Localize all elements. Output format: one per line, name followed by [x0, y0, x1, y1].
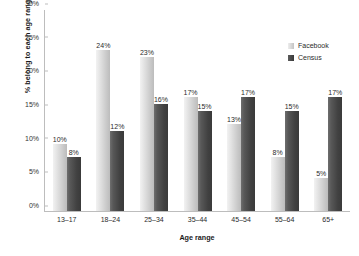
- bar-census-35–44: 15%: [198, 111, 212, 212]
- bar-census-45–54: 17%: [241, 97, 255, 211]
- x-axis-title: Age range: [44, 233, 350, 242]
- bar-value-label: 24%: [96, 42, 110, 49]
- bar-facebook-13–17: 10%: [53, 144, 67, 211]
- y-axis-tick: 20%: [25, 67, 44, 74]
- x-axis-line: [44, 211, 350, 212]
- chart-legend: FacebookCensus: [288, 42, 329, 61]
- x-axis-tick-label: 35–44: [188, 216, 207, 223]
- bar-value-label: 17%: [184, 89, 198, 96]
- y-axis-tick: 5%: [29, 168, 44, 175]
- y-axis-tick: 15%: [25, 101, 44, 108]
- y-axis-tick: 10%: [25, 134, 44, 141]
- legend-label: Facebook: [298, 42, 329, 49]
- bar-facebook-45–54: 13%: [227, 124, 241, 211]
- bar-value-label: 17%: [328, 89, 342, 96]
- bar-groups: 10%8%13–1724%12%18–2423%16%25–3417%15%35…: [45, 10, 350, 211]
- bar-group: 17%15%35–44: [176, 10, 220, 211]
- bar-facebook-65+: 5%: [314, 178, 328, 211]
- bar-chart: % belong to each age range 0%5%10%15%20%…: [0, 0, 359, 256]
- y-axis-title: % belong to each age range: [23, 0, 32, 130]
- legend-swatch-icon: [288, 55, 294, 61]
- bar-value-label: 16%: [154, 96, 168, 103]
- legend-swatch-icon: [288, 43, 294, 49]
- bar-census-18–24: 12%: [110, 131, 124, 211]
- bar-group: 13%17%45–54: [219, 10, 263, 211]
- bar-value-label: 15%: [285, 103, 299, 110]
- bar-census-13–17: 8%: [67, 157, 81, 211]
- y-axis-tick: 30%: [25, 0, 44, 7]
- x-axis-tick-label: 25–34: [144, 216, 163, 223]
- bar-group: 10%8%13–17: [45, 10, 89, 211]
- y-axis-tick: 0%: [29, 202, 44, 209]
- y-tick-mark: [45, 3, 48, 4]
- bar-census-65+: 17%: [328, 97, 342, 211]
- bar-facebook-55–64: 8%: [271, 157, 285, 211]
- bar-value-label: 5%: [316, 170, 326, 177]
- bar-value-label: 10%: [53, 136, 67, 143]
- legend-item-census: Census: [288, 54, 329, 61]
- x-axis-tick-label: 18–24: [101, 216, 120, 223]
- bar-group: 23%16%25–34: [132, 10, 176, 211]
- bar-facebook-25–34: 23%: [140, 57, 154, 211]
- x-axis-tick-label: 65+: [322, 216, 334, 223]
- bar-group: 8%15%55–64: [263, 10, 307, 211]
- x-axis-tick-label: 13–17: [57, 216, 76, 223]
- bar-value-label: 15%: [198, 103, 212, 110]
- bar-facebook-18–24: 24%: [96, 50, 110, 211]
- x-axis-tick-label: 55–64: [275, 216, 294, 223]
- bar-group: 5%17%65+: [306, 10, 350, 211]
- bar-group: 24%12%18–24: [89, 10, 133, 211]
- legend-item-facebook: Facebook: [288, 42, 329, 49]
- bar-facebook-35–44: 17%: [184, 97, 198, 211]
- bar-census-25–34: 16%: [154, 104, 168, 211]
- bar-census-55–64: 15%: [285, 111, 299, 212]
- bar-value-label: 23%: [140, 49, 154, 56]
- bar-value-label: 17%: [241, 89, 255, 96]
- bar-value-label: 8%: [69, 149, 79, 156]
- bar-value-label: 12%: [110, 123, 124, 130]
- plot-area: 0%5%10%15%20%25%30% 10%8%13–1724%12%18–2…: [44, 10, 350, 212]
- x-axis-tick-label: 45–54: [231, 216, 250, 223]
- y-axis-tick: 25%: [25, 33, 44, 40]
- bar-value-label: 8%: [273, 149, 283, 156]
- legend-label: Census: [298, 54, 322, 61]
- bar-value-label: 13%: [227, 116, 241, 123]
